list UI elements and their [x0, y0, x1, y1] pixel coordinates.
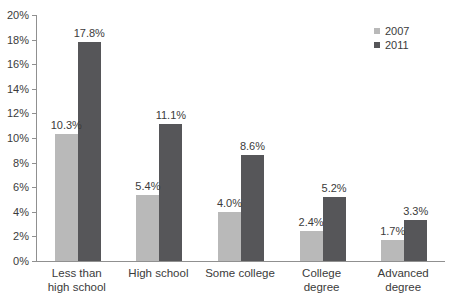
y-tick-label: 10% — [0, 131, 29, 145]
legend-swatch-2011 — [374, 42, 380, 48]
bar-2007: 10.3% — [55, 134, 78, 261]
bar-value-label: 5.2% — [322, 182, 347, 194]
legend: 20072011 — [374, 25, 409, 53]
legend-item: 2011 — [374, 39, 409, 51]
bar-value-label: 4.0% — [217, 197, 242, 209]
legend-label: 2011 — [385, 39, 409, 51]
legend-swatch-2007 — [374, 28, 380, 34]
y-tick-label: 4% — [0, 205, 29, 219]
bar-value-label: 8.6% — [240, 140, 265, 152]
y-tick-label: 16% — [0, 57, 29, 71]
category-label: Less than high school — [36, 266, 118, 294]
bar-2011: 3.3% — [404, 220, 427, 261]
bar-value-label: 1.7% — [380, 225, 405, 237]
bar-2011: 17.8% — [78, 42, 101, 261]
y-tick-label: 8% — [0, 156, 29, 170]
category-label: High school — [118, 266, 200, 294]
y-tick-label: 0% — [0, 254, 29, 268]
bar-value-label: 3.3% — [403, 205, 428, 217]
bar-group: 5.4%11.1% — [119, 15, 201, 261]
category-label: Some college — [199, 266, 281, 294]
bar-value-label: 5.4% — [135, 180, 160, 192]
bar-value-label: 11.1% — [156, 109, 186, 121]
x-axis-labels: Less than high schoolHigh schoolSome col… — [36, 266, 444, 294]
category-label: College degree — [281, 266, 363, 294]
bar-2007: 2.4% — [300, 231, 323, 261]
legend-item: 2007 — [374, 25, 409, 37]
y-tick-label: 14% — [0, 82, 29, 96]
bar-2007: 1.7% — [381, 240, 404, 261]
bar-chart: 0%2%4%6%8%10%12%14%16%18%20% 10.3%17.8%5… — [0, 0, 450, 304]
bar-2011: 11.1% — [159, 124, 182, 261]
bar-group: 4.0%8.6% — [200, 15, 282, 261]
bar-2011: 8.6% — [241, 155, 264, 261]
bar-group: 10.3%17.8% — [37, 15, 119, 261]
bar-2011: 5.2% — [323, 197, 346, 261]
bar-group: 2.4%5.2% — [282, 15, 364, 261]
y-tick-label: 12% — [0, 106, 29, 120]
legend-label: 2007 — [385, 25, 409, 37]
bar-2007: 4.0% — [218, 212, 241, 261]
y-tick-label: 18% — [0, 33, 29, 47]
bar-value-label: 10.3% — [51, 119, 82, 131]
category-label: Advanced degree — [362, 266, 444, 294]
y-tick-label: 2% — [0, 229, 29, 243]
y-tick-label: 20% — [0, 8, 29, 22]
y-tick-label: 6% — [0, 180, 29, 194]
bar-value-label: 17.8% — [74, 27, 105, 39]
bar-value-label: 2.4% — [299, 216, 324, 228]
bar-2007: 5.4% — [136, 195, 159, 261]
